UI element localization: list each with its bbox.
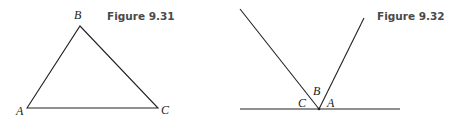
triangle-abc — [27, 26, 158, 108]
figure-9-31: B A C Figure 9.31 — [15, 8, 175, 118]
figure-9-32: C B A Figure 9.32 — [240, 9, 445, 110]
figure-caption: Figure 9.32 — [377, 10, 445, 22]
left-ray — [240, 9, 319, 109]
angle-label-c: C — [298, 96, 307, 110]
angle-label-b: B — [313, 84, 321, 98]
figure-caption: Figure 9.31 — [107, 10, 175, 22]
right-ray — [319, 18, 364, 109]
vertex-label-b: B — [74, 8, 82, 22]
figure-canvas: B A C Figure 9.31 C B A Figure 9.32 — [0, 0, 461, 121]
angle-label-a: A — [326, 96, 335, 110]
vertex-point — [318, 108, 321, 111]
vertex-label-a: A — [15, 104, 24, 118]
vertex-label-c: C — [161, 103, 170, 117]
